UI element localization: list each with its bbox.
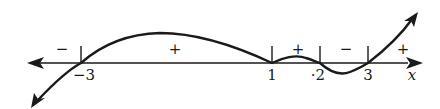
sign-label-interval-4: −	[340, 40, 353, 58]
polynomial-curve	[38, 18, 413, 100]
sign-label-interval-3: +	[292, 40, 305, 58]
tick-label-2: ·2	[311, 66, 325, 84]
axis-variable-label: x	[408, 66, 417, 84]
tick-label-minus-3: −3	[73, 66, 95, 84]
curve-right-arrow-icon	[404, 12, 418, 27]
sign-label-interval-5: +	[397, 40, 410, 58]
sign-label-interval-2: +	[169, 40, 182, 58]
tick-label-1: 1	[267, 66, 277, 84]
sign-chart-diagram: −3 1 ·2 3 − + + − + x	[0, 0, 440, 109]
sign-chart-canvas: −3 1 ·2 3 − + + − + x	[0, 0, 440, 109]
sign-label-interval-1: −	[56, 40, 69, 58]
tick-label-3: 3	[363, 66, 373, 84]
